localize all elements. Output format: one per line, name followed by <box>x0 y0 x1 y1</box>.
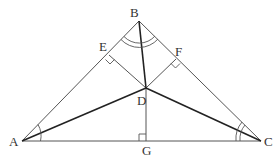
label-g: G <box>142 143 151 158</box>
label-c: C <box>264 134 273 149</box>
angle-arc-b-inner <box>124 36 155 43</box>
label-e: E <box>99 39 107 54</box>
segment-bd <box>139 21 146 88</box>
point-labels: A B C D E F G <box>9 5 273 158</box>
right-angle-mark-g <box>139 134 146 141</box>
angle-bisectors <box>22 21 261 141</box>
label-a: A <box>9 134 19 149</box>
right-angle-mark-f <box>171 64 180 69</box>
segment-cd <box>146 88 261 141</box>
segment-df <box>146 59 176 88</box>
label-d: D <box>137 93 146 108</box>
segment-ab <box>22 21 139 141</box>
label-f: F <box>175 44 182 59</box>
geometry-diagram: A B C D E F G <box>0 0 279 159</box>
segment-bc <box>139 21 261 141</box>
label-b: B <box>130 5 139 20</box>
right-angle-mark-e <box>106 60 115 65</box>
